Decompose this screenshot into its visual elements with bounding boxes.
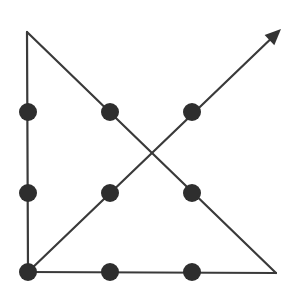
dot-r2-c2 <box>101 184 119 202</box>
dot-r2-c1 <box>19 184 37 202</box>
dot-r2-c3 <box>183 184 201 202</box>
dot-r3-c2 <box>101 263 119 281</box>
dot-r3-c1 <box>19 263 37 281</box>
dot-r1-c1 <box>19 103 37 121</box>
dot-r1-c2 <box>101 103 119 121</box>
connecting-lines <box>27 32 276 273</box>
line-segment-1 <box>27 32 28 272</box>
nine-dot-diagram <box>0 0 299 298</box>
dot-r1-c3 <box>183 103 201 121</box>
line-segment-3 <box>28 272 276 273</box>
dot-r3-c3 <box>183 263 201 281</box>
